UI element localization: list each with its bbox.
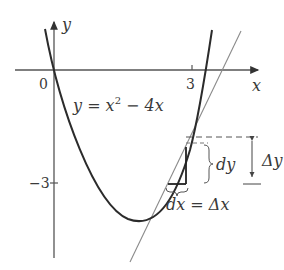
differential-diagram: y x 0 3 −3 y = x2 − 4x dy Δy dx = Δx [0, 0, 284, 270]
x-axis-label: x [252, 76, 261, 95]
equation-label: y = x2 − 4x [72, 95, 164, 115]
dx-label: dx = Δx [166, 195, 229, 214]
tangent-line [130, 31, 241, 262]
y-tick-label-minus3: −3 [29, 175, 50, 191]
y-axis-label: y [61, 15, 72, 34]
origin-label: 0 [39, 76, 48, 92]
dy-label: dy [216, 155, 236, 174]
dy-brace [204, 145, 213, 183]
parabola-curve [45, 29, 212, 221]
x-tick-label-3: 3 [186, 76, 195, 92]
delta-y-label: Δy [261, 151, 284, 170]
